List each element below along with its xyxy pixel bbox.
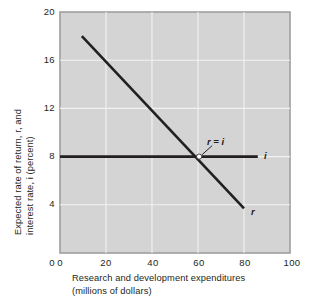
x-tick-100: 100 <box>277 257 307 268</box>
x-axis-label-line1: Research and development expenditures <box>72 272 245 285</box>
y-axis-label: Expected rate of return, r, and interest… <box>12 109 36 235</box>
x-axis-label: Research and development expenditures (m… <box>72 272 245 298</box>
x-tick-60: 60 <box>184 257 214 268</box>
y-tick-4: 4 <box>33 198 55 209</box>
chart-figure: 20 16 12 8 4 0 0 20 40 60 80 100 Expecte… <box>0 0 315 304</box>
x-tick-40: 40 <box>138 257 168 268</box>
y-tick-8: 8 <box>33 150 55 161</box>
x-tick-80: 80 <box>230 257 260 268</box>
equilibrium-point-marker <box>197 154 202 159</box>
x-tick-20: 20 <box>91 257 121 268</box>
y-axis-label-line1: Expected rate of return, r, and <box>12 109 24 235</box>
x-tick-0: 0 <box>45 257 75 268</box>
curve-label-i: i <box>264 150 267 161</box>
curve-label-r: r <box>251 206 255 217</box>
y-tick-16: 16 <box>33 54 55 65</box>
y-tick-12: 12 <box>33 102 55 113</box>
y-axis-label-wrap: Expected rate of return, r, and interest… <box>0 0 36 260</box>
annotation-label-r-equals-i: r = i <box>207 136 224 147</box>
x-axis-label-line2: (millions of dollars) <box>72 285 245 298</box>
y-tick-20: 20 <box>33 6 55 17</box>
y-axis-label-line2: interest rate, i (percent) <box>24 109 36 235</box>
